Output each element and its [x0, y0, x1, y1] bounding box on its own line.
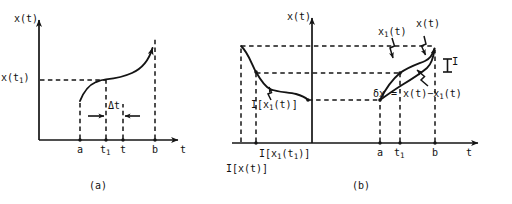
panel-a-caption: (a) [89, 181, 107, 191]
panel-b-node-dot-origin [306, 98, 310, 102]
panel-b-tick-dot-I [254, 141, 257, 144]
panel-b-tick-dot-b [433, 141, 436, 144]
panel-a-tick-dot-t [121, 138, 124, 141]
panel-a-tick-dot-t1 [104, 138, 107, 141]
panel-a-y-tick-label: x(t1) [1, 73, 30, 85]
panel-b-node-dot-t1 [398, 71, 402, 75]
panel-a-xtick-t: t [120, 145, 126, 155]
panel-b-curve-label-x1-of-t: x1(t) [378, 27, 407, 39]
panel-a-delta-t-label: Δt [108, 101, 120, 111]
panel-b-caption: (b) [352, 181, 370, 191]
panel-b [232, 18, 478, 145]
panel-a-curve-xt [80, 48, 153, 101]
panel-b-leader-x-of-t [422, 36, 427, 55]
panel-a [39, 20, 178, 142]
panel-b-node-dot-left [254, 70, 258, 74]
panel-a-tick-dot-a [78, 138, 81, 141]
panel-b-xtick-t1: t1 [394, 148, 405, 160]
panel-b-tick-dot-t1 [398, 141, 401, 144]
panel-a-tick-dot-b [153, 138, 156, 141]
panel-b-xtick-b: b [432, 148, 438, 158]
panel-b-interval-marker-I [443, 59, 452, 72]
panel-b-functional-axis-label: I[x(t)] [226, 164, 268, 174]
panel-a-xtick-a: a [77, 145, 83, 155]
panel-a-xtick-t1: t1 [100, 145, 111, 157]
panel-a-x-axis-label: t [180, 145, 186, 155]
figure-container: x(t) x(t1) a t1 t b t Δt (a) x(t) x1(t) … [0, 0, 512, 204]
panel-b-leader-x1-of-t [390, 38, 395, 58]
panel-a-xtick-b: b [152, 145, 158, 155]
panel-b-tick-dot-a [378, 141, 381, 144]
panel-b-marker-label-I: I [452, 56, 458, 67]
panel-b-delta-x-annotation: δx = x(t)−x1(t) [373, 89, 462, 101]
panel-b-x-axis-label: t [466, 148, 472, 158]
panel-a-y-axis-label: x(t) [14, 14, 38, 24]
panel-b-curve-label-x-of-t: x(t) [416, 19, 440, 29]
panel-b-xtick-a: a [377, 148, 383, 158]
panel-b-y-axis-label: x(t) [287, 12, 311, 22]
panel-b-curve-label-I-functional: I[x1(t)] [251, 100, 298, 112]
panel-b-functional-tick-label: I[x1(t1)] [259, 149, 310, 161]
